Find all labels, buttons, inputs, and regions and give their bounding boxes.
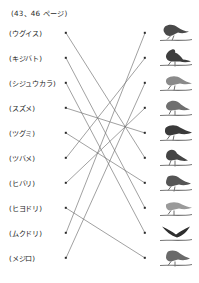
worksheet-sheet: (43、46 ページ) (ウグイス)(キジバト)(シジュウカラ)(スズメ)(ツグ… bbox=[0, 0, 199, 283]
left-dot-10[interactable] bbox=[65, 257, 67, 259]
left-dot-6[interactable] bbox=[65, 157, 67, 159]
bird-name-label-8: (ヒヨドリ) bbox=[9, 203, 42, 213]
bird-photo-7-sparrow-on-branch bbox=[158, 173, 194, 194]
connection-line-6-to-2 bbox=[66, 58, 145, 158]
left-dot-8[interactable] bbox=[65, 207, 67, 209]
connection-line-2-to-8 bbox=[66, 58, 145, 208]
left-dot-1[interactable] bbox=[65, 32, 67, 34]
right-dot-3[interactable] bbox=[144, 82, 146, 84]
connection-line-3-to-9 bbox=[66, 83, 145, 233]
connection-line-10-to-3 bbox=[66, 83, 145, 258]
bird-name-label-10: (メジロ) bbox=[9, 253, 35, 263]
connection-line-1-to-6 bbox=[66, 33, 145, 158]
connection-line-9-to-1 bbox=[66, 33, 145, 233]
connection-line-8-to-10 bbox=[66, 208, 145, 258]
bird-photo-10-starling bbox=[158, 248, 194, 269]
right-dot-9[interactable] bbox=[144, 232, 146, 234]
bird-photo-3-pale-songbird bbox=[158, 73, 194, 94]
bird-name-label-9: (ムクドリ) bbox=[9, 228, 42, 238]
bird-name-label-3: (シジュウカラ) bbox=[9, 78, 56, 88]
bird-photo-8-pale-bird-branch bbox=[158, 198, 194, 219]
page-reference: (43、46 ページ) bbox=[11, 8, 67, 18]
right-dot-4[interactable] bbox=[144, 107, 146, 109]
bird-photo-5-dark-headed-bird bbox=[158, 123, 194, 144]
bird-photo-9-swallow bbox=[158, 223, 194, 244]
connection-line-4-to-5 bbox=[66, 108, 145, 133]
right-dot-10[interactable] bbox=[144, 257, 146, 259]
right-dot-8[interactable] bbox=[144, 207, 146, 209]
right-dot-1[interactable] bbox=[144, 32, 146, 34]
left-dot-5[interactable] bbox=[65, 132, 67, 134]
connection-line-7-to-4 bbox=[66, 108, 145, 183]
connection-line-5-to-7 bbox=[66, 133, 145, 183]
right-dot-5[interactable] bbox=[144, 132, 146, 134]
bird-name-label-6: (ツバメ) bbox=[9, 153, 35, 163]
left-dot-9[interactable] bbox=[65, 232, 67, 234]
left-dot-3[interactable] bbox=[65, 82, 67, 84]
left-dot-4[interactable] bbox=[65, 107, 67, 109]
left-dot-2[interactable] bbox=[65, 57, 67, 59]
bird-photo-2-crested-bird bbox=[158, 48, 194, 69]
bird-name-label-1: (ウグイス) bbox=[9, 28, 42, 38]
bird-photo-4-sparrow bbox=[158, 98, 194, 119]
right-dot-6[interactable] bbox=[144, 157, 146, 159]
bird-name-label-7: (ヒバリ) bbox=[9, 178, 35, 188]
bird-name-label-5: (ツグミ) bbox=[9, 128, 35, 138]
bird-name-label-2: (キジバト) bbox=[9, 53, 42, 63]
right-dot-7[interactable] bbox=[144, 182, 146, 184]
left-dot-7[interactable] bbox=[65, 182, 67, 184]
bird-photo-1-perched-warbler bbox=[158, 23, 194, 44]
right-dot-2[interactable] bbox=[144, 57, 146, 59]
bird-photo-6-perched-thrush bbox=[158, 148, 194, 169]
bird-name-label-4: (スズメ) bbox=[9, 103, 35, 113]
